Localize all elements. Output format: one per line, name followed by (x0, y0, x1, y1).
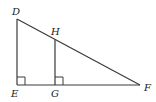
vertex-label-f: F (143, 82, 152, 93)
vertex-label-e: E (10, 88, 19, 99)
vertex-label-h: H (50, 26, 60, 37)
triangle-diagram: D H E G F (0, 0, 156, 102)
vertex-label-g: G (51, 88, 59, 99)
vertex-label-d: D (11, 6, 20, 17)
segment-df (17, 19, 140, 85)
right-angle-marker-e (17, 77, 25, 85)
right-angle-marker-g (55, 77, 63, 85)
